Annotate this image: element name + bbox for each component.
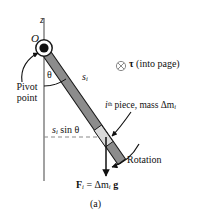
- ith-piece-text: piece, mass Δm: [112, 100, 174, 110]
- pivot-point-label-O: O: [31, 33, 39, 45]
- arc-length-label: si: [82, 72, 88, 83]
- force-equals-delta-m: = Δm: [84, 179, 109, 190]
- physics-figure-rotating-rod: z O θ si Pivot point τ (into page) ith p…: [0, 0, 200, 220]
- z-axis-label: z: [40, 15, 44, 26]
- arc-length-subscript: i: [86, 75, 88, 82]
- gravity-symbol-g: g: [113, 179, 118, 190]
- pivot-inner-dot: [39, 43, 48, 52]
- pivot-caption: Pivot point: [3, 82, 51, 104]
- moment-arm-label: si sin θ: [52, 125, 79, 136]
- moment-arm-sin-theta: sin θ: [58, 124, 79, 135]
- ith-piece-mass-subscript: i: [174, 103, 176, 110]
- theta-angle-label: θ: [47, 70, 52, 81]
- pivot-caption-line-2: point: [3, 93, 51, 104]
- torque-label: τ (into page): [129, 59, 180, 70]
- piece-leader-arrow: [112, 112, 131, 136]
- torque-into-page-icon: [116, 61, 125, 70]
- rotation-label: Rotation: [127, 155, 161, 166]
- torque-symbol-tau: τ: [129, 58, 134, 69]
- mass-subscript: i: [109, 183, 111, 190]
- ith-piece-label: ith piece, mass Δmi: [105, 100, 176, 111]
- force-equation-label: Fi = Δmi g: [76, 180, 118, 191]
- pivot-leader-arrow: [22, 53, 38, 82]
- panel-label: (a): [90, 199, 101, 210]
- torque-direction-text: (into page): [136, 58, 180, 69]
